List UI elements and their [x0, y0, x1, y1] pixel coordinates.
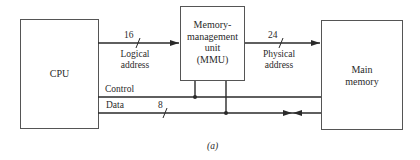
main-memory-label-line2: memory	[321, 76, 403, 88]
control-junction-dot	[193, 95, 197, 99]
figure-caption: (a)	[207, 141, 218, 152]
data-arrow-right-icon	[283, 110, 292, 116]
logical-address-label: Logical address	[110, 49, 160, 71]
main-memory-label: Main memory	[321, 64, 403, 87]
data-junction-dot	[224, 111, 228, 115]
mmu-label-line1: Memory-	[180, 19, 245, 31]
physical-address-line2: address	[254, 60, 304, 71]
physical-address-label: Physical address	[254, 49, 304, 71]
control-bus-label: Control	[105, 84, 134, 95]
mmu-label-line2: management	[180, 31, 245, 43]
logical-bus-width: 16	[124, 30, 134, 41]
mmu-label-line3: unit	[180, 42, 245, 54]
data-arrow-left-icon	[293, 110, 302, 116]
data-bus-label: Data	[106, 100, 124, 111]
cpu-label: CPU	[20, 68, 99, 80]
data-bus-width: 8	[158, 100, 163, 111]
mmu-label: Memory- management unit (MMU)	[180, 19, 245, 65]
mmu-label-line4: (MMU)	[180, 54, 245, 66]
physical-address-line1: Physical	[254, 49, 304, 60]
logical-address-line1: Logical	[110, 49, 160, 60]
logical-address-line2: address	[110, 60, 160, 71]
physical-bus-width: 24	[268, 30, 278, 41]
main-memory-label-line1: Main	[321, 64, 403, 76]
